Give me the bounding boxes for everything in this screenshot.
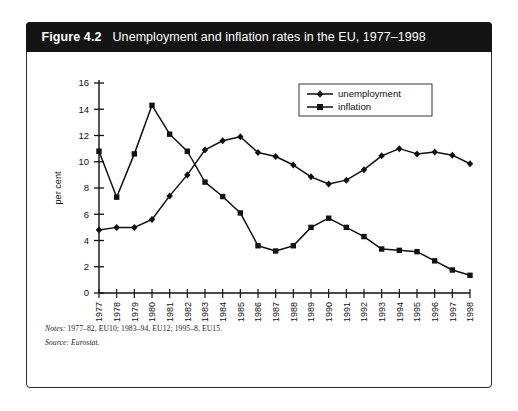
marker-inflation	[220, 194, 225, 199]
figure-panel: Figure 4.2 Unemployment and inflation ra…	[26, 22, 492, 388]
marker-inflation	[291, 243, 296, 248]
marker-inflation	[273, 248, 278, 253]
marker-inflation	[238, 210, 243, 215]
x-tick-label: 1998	[465, 302, 475, 322]
y-tick-label: 4	[84, 235, 89, 246]
marker-inflation	[379, 246, 384, 251]
marker-inflation	[326, 215, 331, 220]
marker-inflation	[96, 149, 101, 154]
marker-inflation	[167, 131, 172, 136]
marker-inflation	[132, 151, 137, 156]
notes-label: Notes:	[45, 324, 65, 333]
figure-title: Unemployment and inflation rates in the …	[113, 30, 426, 44]
marker-inflation	[149, 103, 154, 108]
x-tick-label: 1985	[236, 302, 246, 322]
marker-unemployment	[290, 162, 296, 169]
y-tick-label: 0	[84, 287, 89, 298]
x-tick-label: 1993	[377, 302, 387, 322]
marker-unemployment	[396, 145, 402, 152]
marker-inflation	[344, 225, 349, 230]
line-chart: 0246810121416per cent1977197819791980198…	[27, 53, 490, 353]
y-tick-label: 6	[84, 209, 89, 220]
marker-unemployment	[308, 173, 314, 180]
marker-unemployment	[449, 152, 455, 159]
marker-unemployment	[343, 177, 349, 184]
marker-inflation	[432, 258, 437, 263]
legend-label-inflation: inflation	[338, 101, 371, 112]
x-tick-label: 1980	[147, 302, 157, 322]
y-tick-label: 2	[84, 261, 89, 272]
x-tick-label: 1994	[395, 302, 405, 322]
series-line-unemployment	[99, 137, 470, 230]
y-axis-title: per cent	[53, 171, 63, 205]
marker-unemployment	[325, 181, 331, 188]
marker-unemployment	[414, 150, 420, 157]
x-tick-label: 1996	[430, 302, 440, 322]
marker-inflation	[414, 249, 419, 254]
marker-unemployment	[113, 224, 119, 231]
x-tick-label: 1997	[448, 302, 458, 322]
marker-unemployment	[131, 224, 137, 231]
x-tick-label: 1978	[112, 302, 122, 322]
marker-inflation	[114, 194, 119, 199]
x-tick-label: 1992	[359, 302, 369, 322]
x-tick-label: 1979	[130, 302, 140, 322]
x-tick-label: 1982	[183, 302, 193, 322]
source-label: Source:	[45, 338, 69, 347]
marker-unemployment	[219, 137, 225, 144]
x-tick-label: 1977	[94, 302, 104, 322]
marker-inflation	[185, 149, 190, 154]
x-tick-label: 1981	[165, 302, 175, 322]
figure-title-bar: Figure 4.2 Unemployment and inflation ra…	[26, 22, 492, 52]
legend-label-unemployment: unemployment	[338, 88, 401, 99]
x-tick-label: 1983	[200, 302, 210, 322]
chart-area: 0246810121416per cent1977197819791980198…	[27, 53, 490, 387]
marker-inflation	[202, 179, 207, 184]
marker-inflation	[450, 267, 455, 272]
marker-unemployment	[272, 153, 278, 160]
x-tick-label: 1986	[253, 302, 263, 322]
x-tick-label: 1991	[342, 302, 352, 322]
figure-number: Figure 4.2	[42, 30, 102, 44]
legend-marker-inflation	[317, 104, 323, 110]
marker-inflation	[361, 234, 366, 239]
x-tick-label: 1984	[218, 302, 228, 322]
figure-source: Source: Eurostat.	[45, 338, 100, 347]
marker-inflation	[255, 243, 260, 248]
marker-unemployment	[431, 148, 437, 155]
marker-unemployment	[96, 227, 102, 234]
x-tick-label: 1989	[306, 302, 316, 322]
x-tick-label: 1990	[324, 302, 334, 322]
marker-inflation	[308, 225, 313, 230]
marker-inflation	[397, 248, 402, 253]
x-tick-label: 1988	[289, 302, 299, 322]
y-tick-label: 12	[78, 130, 89, 141]
y-tick-label: 16	[78, 77, 89, 88]
notes-text: 1977–82, EU10; 1983–94, EU12; 1995–8, EU…	[65, 324, 222, 333]
y-tick-label: 14	[78, 104, 89, 115]
y-tick-label: 8	[84, 182, 89, 193]
x-tick-label: 1987	[271, 302, 281, 322]
y-tick-label: 10	[78, 156, 89, 167]
marker-inflation	[467, 273, 472, 278]
source-text: Eurostat.	[69, 338, 100, 347]
marker-unemployment	[467, 160, 473, 167]
figure-notes: Notes: 1977–82, EU10; 1983–94, EU12; 199…	[45, 324, 222, 333]
x-tick-label: 1995	[412, 302, 422, 322]
